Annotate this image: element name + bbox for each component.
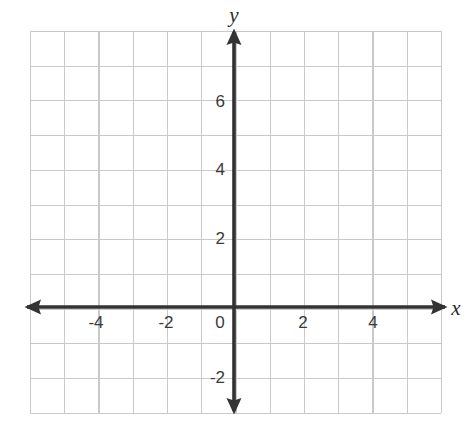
y-tick-label-2: 2 <box>216 230 225 247</box>
x-tick-label-neg4: -4 <box>88 314 103 331</box>
x-tick-label-neg2: -2 <box>158 314 173 331</box>
coordinate-plane-svg <box>0 0 468 423</box>
x-axis-name-label: x <box>451 298 460 319</box>
coordinate-plane-figure: -4 -2 0 2 4 6 4 2 -2 y x <box>0 0 468 423</box>
y-axis-name-label: y <box>229 5 238 26</box>
y-tick-label-6: 6 <box>216 93 225 110</box>
x-tick-label-4: 4 <box>368 314 377 331</box>
x-tick-label-2: 2 <box>298 314 307 331</box>
origin-label-zero: 0 <box>215 314 224 331</box>
y-tick-label-neg2: -2 <box>210 369 225 386</box>
y-tick-label-4: 4 <box>216 161 225 178</box>
